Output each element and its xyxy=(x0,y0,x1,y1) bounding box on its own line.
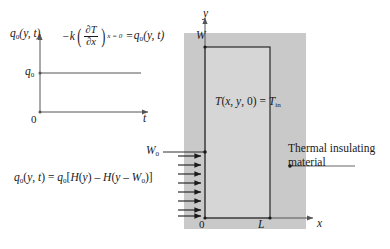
flux-eq-fraction: ∂T ∂x xyxy=(84,25,99,48)
domain-x-axis-label: x xyxy=(317,218,322,230)
paren-open: ( xyxy=(77,28,81,45)
flux-plot-level-label: q0 xyxy=(25,66,34,79)
domain-origin-label: 0 xyxy=(199,219,205,230)
domain-width-label: L xyxy=(258,219,264,231)
flux-plot-series xyxy=(39,72,142,114)
flux-eq-denominator: ∂x xyxy=(84,36,98,48)
figure-canvas: q0(y, t) q0 0 t −k ( ∂T ∂x ) x = 0 = q0(… xyxy=(0,0,390,249)
domain-height-label: W xyxy=(196,30,206,42)
heated-extent-label: W0 xyxy=(146,145,159,158)
tick-L xyxy=(268,216,271,219)
tick-W xyxy=(203,45,206,48)
flux-plot-x-axis-label: t xyxy=(143,113,146,125)
flux-origin-marker xyxy=(39,111,42,114)
flux-eq-rhs: q0(y, t) xyxy=(134,30,164,43)
domain-y-axis-label: y xyxy=(203,8,208,20)
paren-close: ) xyxy=(101,28,105,45)
insulating-material-callout: Thermal insulating material xyxy=(288,142,375,169)
diagram-svg xyxy=(0,0,390,249)
conduction-domain-rect xyxy=(205,47,270,218)
flux-eq-minus-k: −k xyxy=(62,31,75,43)
flux-plot-origin-label: 0 xyxy=(31,114,37,125)
flux-eq-equals: = xyxy=(126,31,133,43)
flux-eq-subscript: x = 0 xyxy=(107,33,122,40)
insulating-material-line-1: Thermal insulating xyxy=(288,142,375,156)
insulating-material-line-2: material xyxy=(288,156,375,170)
initial-condition-label: T(x, y, 0) = Tin xyxy=(215,96,281,109)
flux-plot-y-axis-label: q0(y, t) xyxy=(10,28,40,41)
flux-equation: −k ( ∂T ∂x ) x = 0 = q0(y, t) xyxy=(62,25,164,48)
flux-level-marker xyxy=(39,72,42,75)
boundary-condition-equation: q0(y, t) = q0[H(y) – H(y – W0)] xyxy=(14,172,153,185)
flux-eq-numerator: ∂T xyxy=(84,25,99,36)
